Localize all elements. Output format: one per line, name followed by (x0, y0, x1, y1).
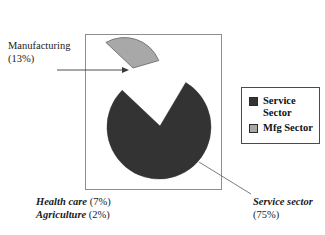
callout-group-bottom-left: Health care (7%) Agriculture (2%) (36, 196, 111, 221)
callout-manufacturing-percent: (13%) (8, 53, 34, 64)
pie-chart-figure: Manufacturing (13%) Health care (7%) Agr… (0, 0, 325, 235)
service-sector-leader-line (199, 162, 251, 194)
legend-label-service-sector-line2: Sector (263, 107, 292, 118)
callout-service-sector: Service sector (75%) (253, 196, 313, 221)
callout-manufacturing-name: Manufacturing (8, 40, 70, 51)
legend-label-mfg-sector: Mfg Sector (263, 122, 313, 134)
manufacturing-arrowhead-icon (122, 67, 129, 73)
callout-service-sector-percent: (75%) (253, 209, 279, 220)
legend-swatch-service-sector-icon (249, 97, 258, 106)
callout-health-care-name: Health care (36, 196, 87, 207)
legend-label-service-sector-line1: Service (263, 95, 296, 106)
callout-health-care: Health care (7%) (36, 196, 111, 209)
legend-swatch-mfg-sector-icon (249, 124, 258, 133)
pie-slice-service-sector (107, 83, 211, 180)
callout-service-sector-name: Service sector (253, 196, 313, 207)
legend-item-mfg-sector: Mfg Sector (249, 122, 315, 134)
callout-health-care-percent: (7%) (90, 196, 111, 207)
legend: Service Sector Mfg Sector (241, 87, 320, 144)
callout-agriculture: Agriculture (2%) (36, 209, 111, 222)
legend-item-service-sector: Service Sector (249, 95, 315, 118)
legend-entries: Service Sector Mfg Sector (249, 95, 315, 138)
callout-agriculture-percent: (2%) (89, 209, 110, 220)
callout-manufacturing: Manufacturing (13%) (8, 40, 70, 65)
callout-agriculture-name: Agriculture (36, 209, 86, 220)
legend-label-service-sector: Service Sector (263, 95, 296, 118)
pie-slice-mfg-sector (106, 38, 159, 68)
